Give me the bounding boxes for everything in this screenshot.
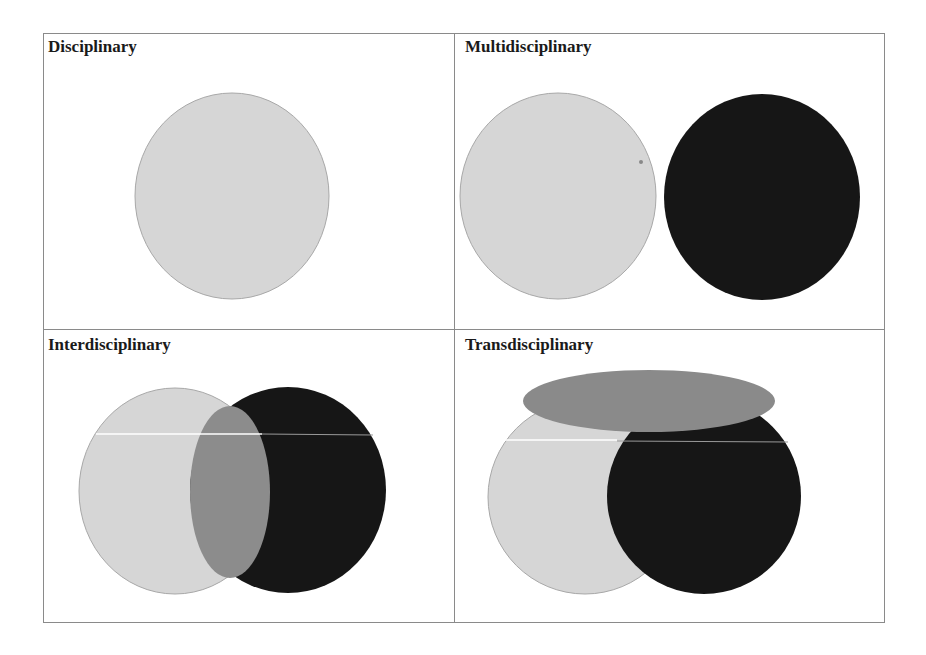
overarching-ellipse xyxy=(523,370,775,432)
discipline-a-circle xyxy=(135,93,329,299)
transdisciplinary-diagram xyxy=(488,370,801,594)
diagram-canvas xyxy=(0,0,926,655)
interdisciplinary-diagram xyxy=(79,387,386,594)
discipline-a-circle xyxy=(460,93,656,299)
multidisciplinary-diagram xyxy=(460,93,860,300)
overlap-ellipse xyxy=(190,406,270,578)
speck-dot xyxy=(639,160,643,164)
disciplinary-diagram xyxy=(135,93,329,299)
discipline-b-circle xyxy=(664,94,860,300)
